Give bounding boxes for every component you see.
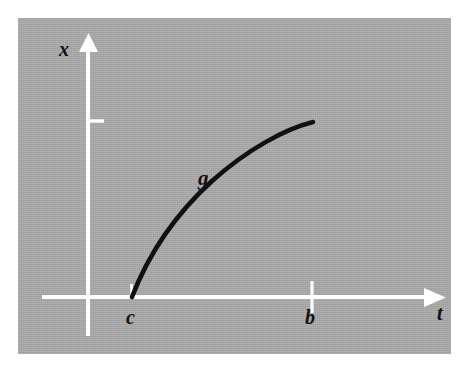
curve-label-g: g	[198, 168, 209, 189]
axis-label-x: x	[59, 39, 69, 59]
curve-g	[132, 122, 313, 297]
x-axis-arrowhead-icon	[79, 33, 98, 52]
axis-label-t: t	[437, 303, 443, 323]
tick-label-b: b	[305, 307, 315, 327]
figure-root: x t c b g	[0, 0, 468, 370]
plot-drawing-surface	[0, 0, 468, 370]
tick-label-c: c	[126, 307, 135, 327]
